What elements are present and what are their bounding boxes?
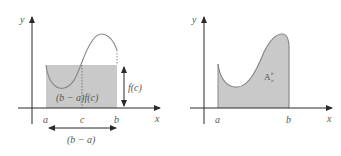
diagram-canvas: y x a c b (b − a)f(c) f(c) (b − a) y x a… <box>0 0 341 156</box>
tick-label-a: a <box>215 114 220 125</box>
tick-label-b: b <box>114 114 119 125</box>
tick-label-b: b <box>286 114 291 125</box>
tick-label-a: a <box>43 114 48 125</box>
height-label: f(c) <box>128 82 143 94</box>
rectangle-area-label: (b − a)f(c) <box>56 92 99 104</box>
width-label: (b − a) <box>67 134 96 146</box>
left-diagram: y x a c b (b − a)f(c) f(c) (b − a) <box>18 14 160 146</box>
area-label-main: A <box>264 72 271 82</box>
tick-label-c: c <box>80 114 85 125</box>
right-diagram: y x a b A b a <box>190 14 332 125</box>
y-axis-label: y <box>191 14 197 25</box>
x-axis-label: x <box>326 113 332 124</box>
y-axis-label: y <box>19 14 25 25</box>
area-under-curve <box>218 34 289 108</box>
x-axis-label: x <box>154 113 160 124</box>
